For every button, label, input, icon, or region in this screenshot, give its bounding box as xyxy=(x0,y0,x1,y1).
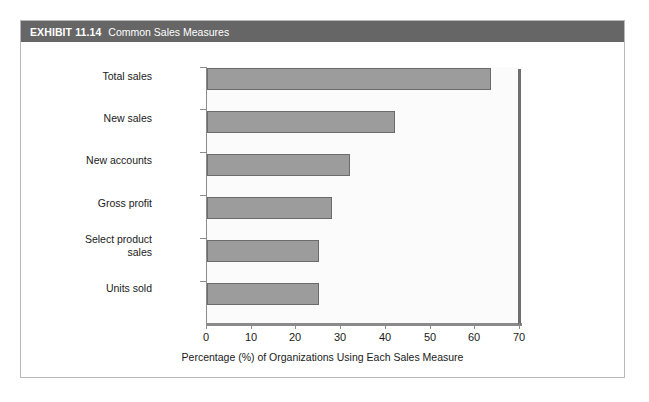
x-tick-label-30: 30 xyxy=(320,331,360,343)
x-axis-tick xyxy=(474,323,475,329)
y-axis-tick xyxy=(200,238,206,239)
x-tick-label-60: 60 xyxy=(454,331,494,343)
y-axis-label-1: New sales xyxy=(0,112,152,125)
x-tick-label-70: 70 xyxy=(499,331,539,343)
bar-select-product-sales xyxy=(207,240,319,262)
x-tick-label-50: 50 xyxy=(410,331,450,343)
x-tick-label-20: 20 xyxy=(275,331,315,343)
bar-total-sales xyxy=(207,68,491,90)
y-axis-label-4: Select product sales xyxy=(62,233,152,258)
plot-right-border xyxy=(518,69,521,325)
chart-area: Total sales New sales New accounts Gross… xyxy=(21,42,624,377)
bar-gross-profit xyxy=(207,197,332,219)
exhibit-header: EXHIBIT 11.14 Common Sales Measures xyxy=(21,21,624,42)
y-axis-label-5: Units sold xyxy=(0,282,152,295)
x-axis-tick xyxy=(206,323,207,329)
y-axis-tick xyxy=(200,152,206,153)
y-axis-tick xyxy=(200,67,206,68)
exhibit-number: EXHIBIT 11.14 xyxy=(30,26,101,38)
y-axis-label-2: New accounts xyxy=(0,154,152,167)
y-axis-label-3: Gross profit xyxy=(0,197,152,210)
x-axis-tick xyxy=(519,323,520,329)
bar-new-accounts xyxy=(207,154,350,176)
x-axis-tick xyxy=(430,323,431,329)
exhibit-caption: Common Sales Measures xyxy=(108,26,229,38)
bar-units-sold xyxy=(207,283,319,305)
y-axis-tick xyxy=(200,109,206,110)
y-axis-tick xyxy=(200,281,206,282)
x-axis-tick xyxy=(295,323,296,329)
x-axis-tick xyxy=(340,323,341,329)
x-axis-tick xyxy=(385,323,386,329)
x-axis-tick xyxy=(251,323,252,329)
bar-new-sales xyxy=(207,111,395,133)
y-axis-tick xyxy=(200,195,206,196)
y-axis-label-0: Total sales xyxy=(0,70,152,83)
x-tick-label-10: 10 xyxy=(231,331,271,343)
x-tick-label-40: 40 xyxy=(365,331,405,343)
x-tick-label-0: 0 xyxy=(186,331,226,343)
x-axis-title: Percentage (%) of Organizations Using Ea… xyxy=(21,351,624,363)
exhibit-frame: EXHIBIT 11.14 Common Sales Measures Tota… xyxy=(20,20,625,378)
